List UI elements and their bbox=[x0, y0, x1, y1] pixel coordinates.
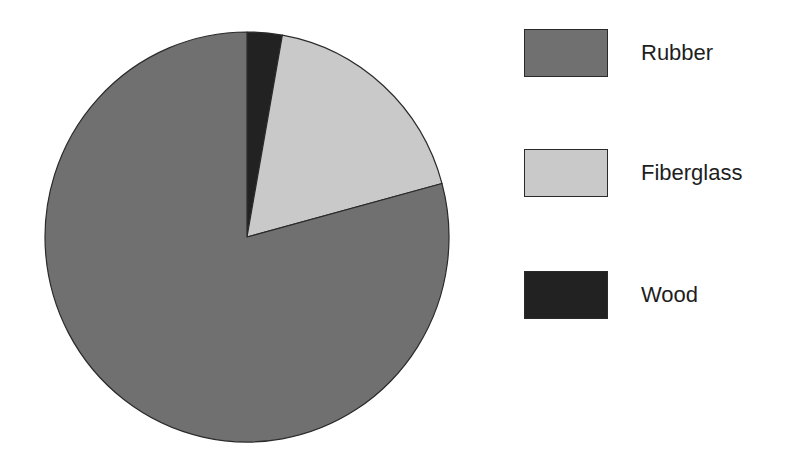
legend-label-wood: Wood bbox=[641, 271, 698, 319]
legend-swatch-rubber bbox=[524, 29, 608, 77]
legend-label-rubber: Rubber bbox=[641, 29, 713, 77]
legend-item-wood: Wood bbox=[524, 271, 784, 319]
legend-label-fiberglass: Fiberglass bbox=[641, 149, 742, 197]
legend-item-fiberglass: Fiberglass bbox=[524, 149, 784, 197]
legend-swatch-wood bbox=[524, 271, 608, 319]
legend-swatch-fiberglass bbox=[524, 149, 608, 197]
pie-slices bbox=[45, 32, 449, 442]
legend-item-rubber: Rubber bbox=[524, 29, 784, 77]
